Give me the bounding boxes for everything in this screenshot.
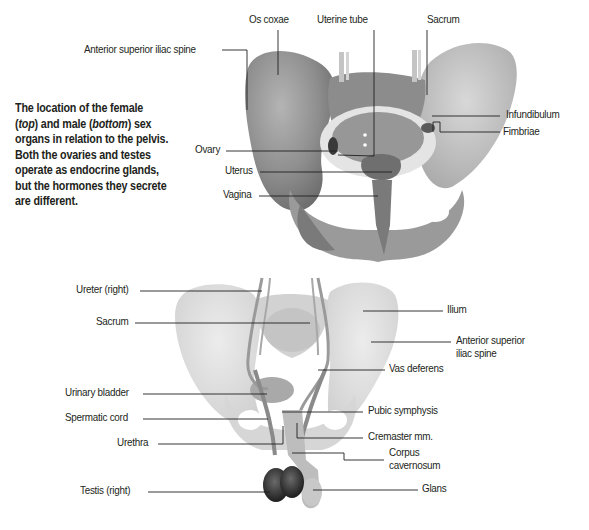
leader-asis-female (222, 50, 247, 110)
label-pubic-symphysis: Pubic symphysis (368, 404, 438, 417)
label-vas-deferens: Vas deferens (389, 362, 443, 375)
caption-emphasis-top: top (18, 117, 34, 131)
caption-line: organs in relation to the pelvis. (15, 132, 200, 148)
label-ureter-right: Ureter (right) (76, 283, 128, 296)
label-uterus: Uterus (225, 164, 253, 177)
caption-line: The location of the female (15, 101, 200, 117)
pelvis-diagram-figure: The location of the female (top) and mal… (0, 0, 589, 530)
pelvis-illustrations (0, 0, 589, 530)
caption-line: (top) and male (bottom) sex (15, 117, 200, 133)
label-sacrum-female: Sacrum (427, 13, 460, 26)
label-anterior-superior-iliac-spine-male: Anterior superior iliac spine (456, 334, 525, 360)
caption-line: operate as endocrine glands, (15, 163, 200, 179)
label-testis-right: Testis (right) (80, 484, 130, 497)
female-pelvis-art (245, 43, 517, 262)
label-ovary: Ovary (195, 143, 220, 156)
label-spermatic-cord: Spermatic cord (65, 411, 128, 424)
label-sacrum-male: Sacrum (96, 315, 129, 328)
label-urinary-bladder: Urinary bladder (65, 386, 129, 399)
caption-emphasis-bottom: bottom (92, 117, 127, 131)
caption-line: but the hormones they secrete (15, 179, 200, 195)
label-fimbriae: Fimbriae (503, 125, 539, 138)
label-corpus-cavernosum: Corpus cavernosum (389, 446, 440, 472)
label-os-coxae: Os coxae (249, 13, 289, 26)
label-anterior-superior-iliac-spine-female: Anterior superior iliac spine (84, 43, 196, 56)
label-vagina: Vagina (223, 188, 252, 201)
label-ilium: Ilium (447, 303, 467, 316)
label-infundibulum: Infundibulum (506, 108, 560, 121)
label-uterine-tube: Uterine tube (317, 13, 368, 26)
label-urethra: Urethra (117, 436, 148, 449)
male-pelvis-art (175, 278, 398, 508)
caption-line: Both the ovaries and testes (15, 148, 200, 164)
caption-line: are different. (15, 194, 200, 210)
label-glans: Glans (422, 482, 447, 495)
label-cremaster: Cremaster mm. (368, 430, 433, 443)
figure-caption: The location of the female (top) and mal… (15, 101, 200, 210)
